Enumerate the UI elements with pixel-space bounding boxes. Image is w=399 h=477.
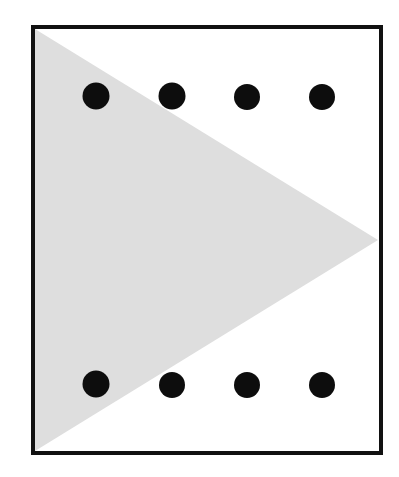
figure-canvas xyxy=(0,0,399,477)
dot-bottom-1 xyxy=(83,371,110,398)
dot-bottom-3 xyxy=(234,372,260,398)
dot-bottom-4 xyxy=(309,372,335,398)
dot-top-3 xyxy=(234,84,260,110)
dot-bottom-2 xyxy=(159,372,185,398)
figure-illustration xyxy=(0,0,399,477)
dot-top-2 xyxy=(159,83,186,110)
dot-top-1 xyxy=(83,83,110,110)
dot-top-4 xyxy=(309,84,335,110)
